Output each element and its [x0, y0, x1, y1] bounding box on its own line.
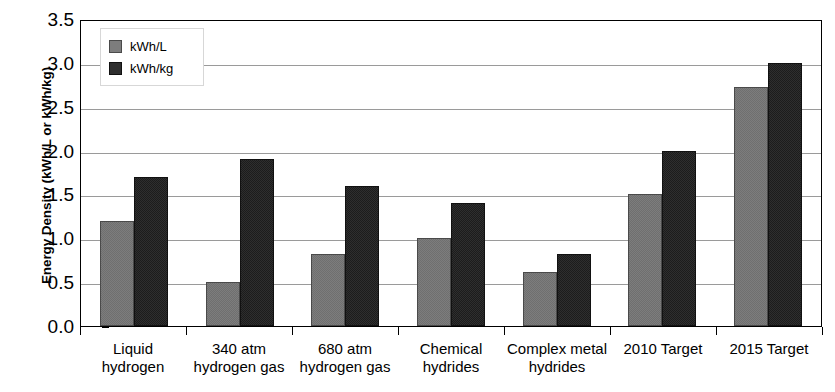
- bar: [206, 282, 240, 326]
- bar: [100, 221, 134, 326]
- bar-group: [504, 21, 610, 326]
- bar: [345, 186, 379, 326]
- legend: kWh/L kWh/kg: [100, 28, 204, 86]
- bar: [417, 238, 451, 326]
- bar-group: [292, 21, 398, 326]
- x-axis-tick-mark: [504, 327, 505, 335]
- x-axis-label: Complex metal hydrides: [504, 340, 610, 375]
- legend-label: kWh/L: [130, 39, 167, 54]
- x-axis-label: 2010 Target: [610, 340, 716, 375]
- y-axis-tick-label: 2.0: [28, 142, 74, 161]
- x-axis-tick-mark: [716, 327, 717, 335]
- bar-group: [398, 21, 504, 326]
- legend-label: kWh/kg: [130, 61, 173, 76]
- bar: [134, 177, 168, 326]
- x-axis-tick-mark: [610, 327, 611, 335]
- bar: [311, 254, 345, 326]
- bar: [734, 87, 768, 326]
- y-axis-tick-mark: [102, 327, 109, 328]
- y-axis-tick-label: 1.5: [28, 185, 74, 204]
- bar: [628, 194, 662, 326]
- y-axis-tick-labels: 3.53.02.52.01.51.00.50.0: [28, 0, 74, 392]
- bar: [768, 63, 802, 326]
- x-axis-label: Chemical hydrides: [398, 340, 504, 375]
- y-axis-tick-label: 2.5: [28, 98, 74, 117]
- x-axis-labels: Liquid hydrogen340 atm hydrogen gas680 a…: [80, 340, 822, 375]
- y-axis-tick-label: 3.5: [28, 10, 74, 29]
- legend-swatch-icon: [109, 40, 122, 53]
- bar: [557, 254, 591, 326]
- y-axis-tick-label: 1.0: [28, 229, 74, 248]
- bar: [523, 272, 557, 326]
- x-axis-label: Liquid hydrogen: [80, 340, 186, 375]
- x-axis-tick-mark: [398, 327, 399, 335]
- x-axis-label: 2015 Target: [716, 340, 822, 375]
- legend-item-kwh-per-kg: kWh/kg: [109, 57, 195, 79]
- x-axis-tick-mark: [80, 327, 81, 335]
- y-axis-tick-label: 0.5: [28, 273, 74, 292]
- bar-group: [610, 21, 716, 326]
- x-axis-label: 680 atm hydrogen gas: [292, 340, 398, 375]
- legend-swatch-icon: [109, 62, 122, 75]
- bar: [451, 203, 485, 326]
- y-axis-tick-label: 3.0: [28, 54, 74, 73]
- x-axis-tick-mark: [292, 327, 293, 335]
- x-axis-tick-mark: [822, 327, 823, 335]
- x-axis-label: 340 atm hydrogen gas: [186, 340, 292, 375]
- y-axis-tick-label: 0.0: [28, 317, 74, 336]
- bar-group: [715, 21, 821, 326]
- bar-chart: Energy Density (kWh/L or kWh/kg) 3.53.02…: [0, 0, 835, 392]
- bar: [240, 159, 274, 326]
- x-axis-tick-mark: [186, 327, 187, 335]
- bar: [662, 151, 696, 326]
- legend-item-kwh-per-l: kWh/L: [109, 35, 195, 57]
